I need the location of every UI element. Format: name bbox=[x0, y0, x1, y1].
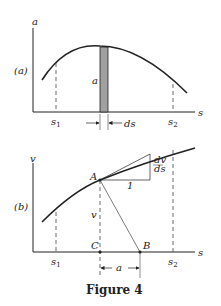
b-x-axis-label: s bbox=[198, 247, 203, 258]
height-v-label: v bbox=[91, 209, 97, 220]
normal-line-AB bbox=[100, 180, 140, 252]
ds-label: ds bbox=[124, 118, 136, 129]
a-s1-label: s1 bbox=[51, 116, 61, 129]
v-curve bbox=[42, 148, 195, 222]
panel-a-tag: (a) bbox=[14, 65, 28, 76]
slope-denominator: ds bbox=[154, 163, 166, 174]
b-y-axis-label: v bbox=[30, 153, 36, 164]
panel-b-tag: (b) bbox=[14, 201, 28, 212]
point-B-label: B bbox=[142, 240, 150, 251]
a-x-axis-label: s bbox=[198, 107, 203, 118]
panel-a: a s (a) a s1 s2 ds bbox=[14, 16, 203, 130]
tangent-line bbox=[100, 154, 150, 180]
point-C-dot bbox=[98, 250, 101, 253]
figure-canvas: a s (a) a s1 s2 ds v s (b) dv ds 1 bbox=[0, 0, 221, 306]
point-B-dot bbox=[138, 250, 141, 253]
a-curve bbox=[42, 46, 187, 93]
b-s1-label: s1 bbox=[51, 256, 61, 269]
figure-caption: Figure 4 bbox=[86, 283, 143, 297]
a-y-axis-label: a bbox=[32, 16, 38, 27]
slope-run-label: 1 bbox=[127, 180, 133, 191]
ds-strip bbox=[100, 47, 108, 112]
point-A-dot bbox=[98, 178, 101, 181]
b-s2-label: s2 bbox=[168, 256, 178, 269]
point-A-label: A bbox=[89, 171, 97, 182]
strip-height-label: a bbox=[92, 75, 98, 86]
a-dimension-label: a bbox=[116, 262, 122, 273]
a-s2-label: s2 bbox=[168, 116, 178, 129]
panel-b: v s (b) dv ds 1 A C B v s1 s2 a bbox=[14, 148, 203, 278]
point-C-label: C bbox=[91, 240, 99, 251]
